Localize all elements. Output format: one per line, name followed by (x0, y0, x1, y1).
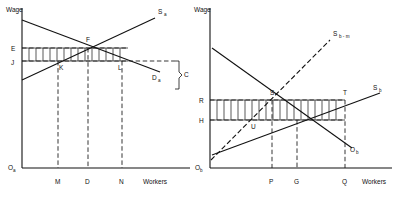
panel-b-demand-curve (212, 48, 352, 148)
panel-b-xtick-q: Q (342, 178, 347, 186)
panel-b-origin-subscript: b (200, 168, 203, 173)
panel-a-supply-label: S (158, 8, 163, 15)
panel-b-ytick-h: H (199, 117, 204, 124)
panel-a-y-axis-label: Wage (6, 6, 23, 14)
panel-a-xtick-m: M (55, 178, 60, 185)
panel-b-supply-migration-label: S (333, 30, 338, 37)
panel-a-ytick-e: E (11, 45, 16, 52)
panel-b-y-axis-label: Wage (194, 6, 211, 14)
panel-b-point-s: S (270, 89, 275, 96)
panel-a-bracket-c (175, 61, 182, 89)
panel-b-supply-label-subscript: b (379, 88, 382, 93)
panel-b-point-u: U (251, 123, 256, 130)
panel-b-xtick-g: G (294, 178, 299, 185)
panel-a: Wage E J O a M D N Workers S a D a F K L… (6, 6, 190, 185)
panel-a-xtick-n: N (119, 178, 124, 185)
diagram-canvas: Wage E J O a M D N Workers S a D a F K L… (0, 0, 403, 197)
panel-b-supply-migration-label-subscript: b - m (339, 34, 350, 39)
panel-a-origin-subscript: a (13, 168, 16, 173)
panel-b-demand-label-subscript: b (356, 150, 359, 155)
panel-a-xtick-d: D (85, 178, 90, 185)
panel-a-demand-label: D (152, 74, 157, 81)
panel-b-hatched-band (210, 100, 345, 120)
panel-b: Wage R H O b P G Q Workers S b - m S b O… (194, 6, 392, 186)
panel-b-x-axis-label: Workers (362, 178, 387, 185)
panel-b-supply-label: S (373, 84, 378, 91)
economics-diagram-figure: Wage E J O a M D N Workers S a D a F K L… (0, 0, 403, 197)
panel-a-demand-label-subscript: a (158, 78, 161, 83)
panel-a-demand-curve (22, 20, 160, 72)
panel-b-demand-label: O (350, 146, 355, 153)
panel-b-ytick-r: R (199, 97, 204, 104)
panel-a-x-axis-label: Workers (143, 178, 168, 185)
panel-b-xtick-p: P (269, 178, 273, 185)
panel-a-ytick-j: J (11, 59, 14, 66)
panel-a-point-l: L (118, 64, 122, 71)
panel-a-supply-label-subscript: a (164, 12, 167, 17)
panel-a-bracket-label: C (184, 71, 189, 78)
panel-a-point-f: F (86, 36, 90, 43)
panel-b-point-t: T (343, 89, 347, 96)
panel-a-point-k: K (59, 64, 64, 71)
